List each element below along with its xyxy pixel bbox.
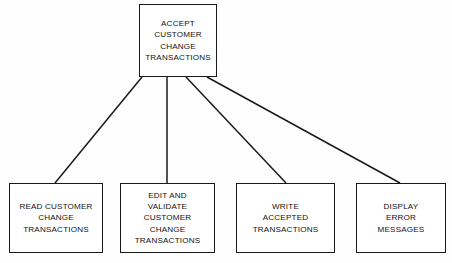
node-label: EDIT AND VALIDATE CUSTOMER CHANGE TRANSA… xyxy=(132,190,204,246)
node-read-customer-change-transactions: READ CUSTOMER CHANGE TRANSACTIONS xyxy=(9,183,103,253)
node-accept-customer-change-transactions: ACCEPT CUSTOMER CHANGE TRANSACTIONS xyxy=(139,4,217,77)
structure-chart-diagram: ACCEPT CUSTOMER CHANGE TRANSACTIONS READ… xyxy=(0,0,452,263)
node-label: ACCEPT CUSTOMER CHANGE TRANSACTIONS xyxy=(142,18,214,63)
connector-root-to-write xyxy=(186,77,286,183)
connector-root-to-display xyxy=(207,77,400,183)
node-write-accepted-transactions: WRITE ACCEPTED TRANSACTIONS xyxy=(236,183,335,253)
node-edit-and-validate-customer-change-transactions: EDIT AND VALIDATE CUSTOMER CHANGE TRANSA… xyxy=(120,183,215,253)
node-label: READ CUSTOMER CHANGE TRANSACTIONS xyxy=(16,201,95,235)
node-display-error-messages: DISPLAY ERROR MESSAGES xyxy=(356,183,446,253)
connector-root-to-read xyxy=(55,77,142,183)
node-label: DISPLAY ERROR MESSAGES xyxy=(375,201,428,235)
node-label: WRITE ACCEPTED TRANSACTIONS xyxy=(250,201,322,235)
